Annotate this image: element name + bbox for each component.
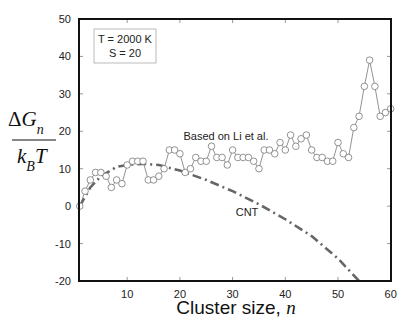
x-axis-label: Cluster size, n: [176, 297, 295, 318]
data-point-marker: [372, 83, 379, 90]
data-point-marker: [250, 158, 257, 165]
x-tick-label: 60: [385, 288, 397, 300]
data-point-marker: [293, 143, 300, 150]
data-point-marker: [82, 188, 89, 195]
data-point-marker: [177, 150, 184, 157]
data-point-marker: [219, 154, 226, 161]
data-point-marker: [351, 124, 358, 131]
data-point-marker: [140, 158, 147, 165]
y-tick-label: 50: [59, 13, 71, 25]
data-point-marker: [87, 177, 94, 184]
y-tick-label: -20: [55, 275, 71, 287]
data-point-marker: [203, 158, 210, 165]
data-point-marker: [277, 139, 284, 146]
data-point-marker: [156, 173, 163, 180]
y-tick-label: 20: [59, 125, 71, 137]
data-point-marker: [224, 162, 231, 169]
chart: -20-1001020304050102030405060T = 2000 KS…: [0, 0, 408, 336]
annotation-cnt: CNT: [236, 206, 259, 218]
data-point-marker: [282, 147, 289, 154]
condition-supersaturation: S = 20: [109, 47, 141, 59]
data-point-marker: [356, 113, 363, 120]
data-point-marker: [103, 173, 110, 180]
data-point-marker: [329, 158, 336, 165]
data-point-marker: [108, 184, 115, 191]
x-tick-label: 50: [332, 288, 344, 300]
data-point-marker: [208, 143, 215, 150]
y-tick-label: 40: [59, 50, 71, 62]
data-point-marker: [271, 150, 278, 157]
y-tick-label: -10: [55, 238, 71, 250]
data-point-marker: [229, 147, 236, 154]
y-tick-label: 0: [65, 200, 71, 212]
y-tick-label: 30: [59, 88, 71, 100]
y-axis-label-numerator: ΔGn: [8, 107, 44, 137]
y-tick-label: 10: [59, 163, 71, 175]
annotation-li-et-al: Based on Li et al.: [183, 130, 268, 142]
data-point-marker: [119, 180, 126, 187]
data-point-marker: [335, 139, 342, 146]
data-point-marker: [361, 83, 368, 90]
data-point-marker: [345, 154, 352, 161]
data-point-marker: [308, 147, 315, 154]
data-point-marker: [161, 165, 168, 172]
data-point-marker: [366, 57, 373, 64]
data-point-marker: [187, 165, 194, 172]
data-point-marker: [303, 132, 310, 139]
data-point-marker: [256, 165, 263, 172]
x-tick-label: 10: [121, 288, 133, 300]
data-point-marker: [287, 132, 294, 139]
condition-temperature: T = 2000 K: [98, 33, 153, 45]
y-axis-label-denominator: kBT: [17, 144, 48, 174]
